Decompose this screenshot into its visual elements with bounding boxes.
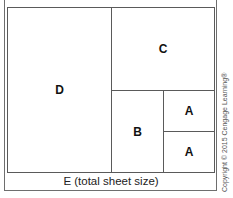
label-c: C: [159, 42, 168, 56]
copyright-notice: Copyright © 2015 Cengage Learning®: [221, 73, 228, 192]
sheet-caption: E (total sheet size): [7, 175, 215, 187]
region-b: B: [112, 91, 163, 172]
label-b: B: [133, 125, 142, 139]
region-a-top: A: [164, 91, 214, 131]
region-a-bottom: A: [164, 132, 214, 172]
region-d: D: [8, 8, 111, 172]
label-a-bottom: A: [185, 145, 194, 159]
label-a-top: A: [185, 104, 194, 118]
sheet-e: D C B A A: [7, 7, 215, 173]
divider-a-split: [163, 131, 214, 132]
label-d: D: [55, 83, 64, 97]
region-c: C: [112, 8, 214, 90]
